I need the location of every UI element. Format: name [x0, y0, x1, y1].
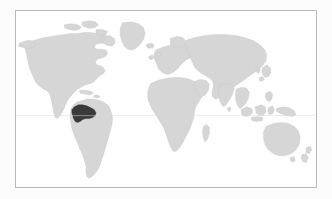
landmass-cuba: [79, 90, 93, 95]
landmass-southeast-asia: [235, 87, 249, 109]
landmass-japan: [262, 65, 271, 78]
world-locator-map: World locator map Colombia: [0, 0, 332, 199]
landmass-new-guinea: [276, 107, 296, 117]
landmass-ireland: [149, 55, 154, 60]
map-frame: [15, 10, 317, 188]
landmass-sumatra: [241, 107, 253, 117]
landmass-japan-south: [259, 77, 264, 82]
landmass-madagascar: [203, 124, 210, 142]
landmass-new-zealand-north: [306, 146, 312, 154]
landmass-tasmania: [290, 157, 295, 163]
landmass-arctic-islands-mid: [82, 21, 99, 29]
landmass-india: [219, 83, 235, 106]
land-layer: [19, 21, 312, 178]
landmass-arctic-islands-west: [64, 24, 81, 31]
landmass-sri-lanka: [228, 107, 231, 112]
landmass-borneo: [255, 105, 266, 116]
landmass-baffin-island: [101, 35, 115, 46]
landmass-africa: [148, 77, 203, 151]
landmass-australia: [264, 122, 301, 155]
map-canvas: [16, 11, 316, 187]
landmass-korea: [256, 67, 260, 74]
landmass-philippines: [265, 91, 272, 102]
landmass-new-zealand-south: [301, 154, 309, 163]
landmass-hispaniola: [94, 95, 101, 98]
landmass-sulawesi: [268, 106, 275, 115]
landmass-iceland: [146, 43, 154, 48]
landmass-java: [251, 117, 263, 122]
landmass-greenland: [120, 22, 145, 50]
landmass-alaska: [19, 40, 37, 48]
